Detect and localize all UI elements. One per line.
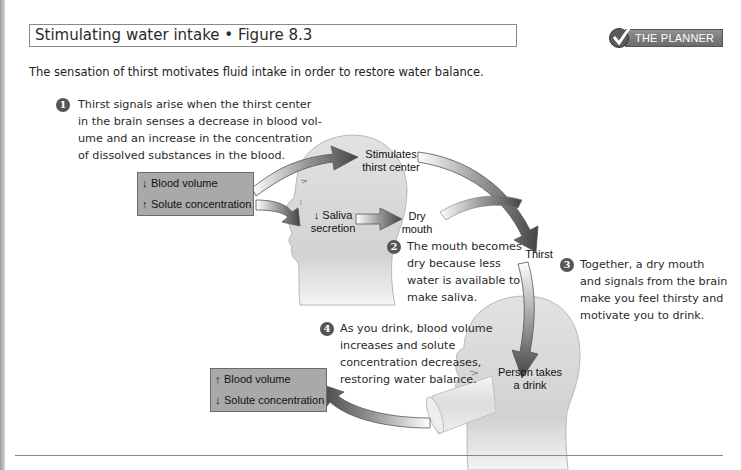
- label-person-takes-drink: Person takes a drink: [490, 366, 570, 392]
- arrow-up-icon: ↑: [215, 369, 224, 390]
- arrow-up-icon: ↑: [142, 194, 151, 215]
- step-text: Thirst signals arise when the thirst cen…: [78, 96, 322, 164]
- state-row-solute: ↓Solute concentration: [211, 390, 326, 411]
- figure-caption: The sensation of thirst motivates fluid …: [29, 65, 484, 79]
- state-row-blood-volume: ↓Blood volume: [138, 173, 253, 194]
- final-state-box: ↑Blood volume ↓Solute concentration: [210, 368, 327, 412]
- initial-state-box: ↓Blood volume ↑Solute concentration: [137, 172, 254, 216]
- planner-button[interactable]: THE PLANNER: [609, 29, 723, 46]
- state-label: Solute concentration: [224, 394, 324, 406]
- state-label: Blood volume: [151, 177, 218, 189]
- step-text: The mouth becomes dry because less water…: [407, 238, 522, 306]
- step-number-badge: 2: [387, 240, 401, 254]
- checkmark-icon: [609, 28, 629, 48]
- arrow-down-icon: ↓: [215, 390, 224, 411]
- step-number-badge: 1: [56, 98, 70, 112]
- bottom-divider: [15, 455, 723, 456]
- step-2: 2 The mouth becomes dry because less wat…: [387, 238, 522, 306]
- state-label: Blood volume: [224, 373, 291, 385]
- label-dry-mouth: Dry mouth: [400, 210, 434, 236]
- step-text: Together, a dry mouth and signals from t…: [580, 256, 727, 324]
- planner-label: THE PLANNER: [625, 29, 723, 47]
- label-thirst: Thirst: [519, 248, 559, 261]
- step-1: 1 Thirst signals arise when the thirst c…: [60, 96, 322, 164]
- step-3: 3 Together, a dry mouth and signals from…: [560, 256, 727, 324]
- step-number-badge: 4: [320, 322, 334, 336]
- state-label: Solute concentration: [151, 198, 251, 210]
- state-row-solute: ↑Solute concentration: [138, 194, 253, 215]
- arrow-down-icon: ↓: [142, 173, 151, 194]
- label-saliva-secretion: ↓ Saliva secretion: [304, 209, 362, 235]
- step-4: 4 As you drink, blood volume increases a…: [320, 320, 493, 388]
- state-row-blood-volume: ↑Blood volume: [211, 369, 326, 390]
- figure-title: Stimulating water intake • Figure 8.3: [29, 24, 517, 47]
- step-number-badge: 3: [560, 258, 574, 272]
- step-text: As you drink, blood volume increases and…: [340, 320, 493, 388]
- arrow-to-final-state: [320, 384, 430, 428]
- label-stimulates-thirst-center: Stimulates thirst center: [356, 148, 426, 174]
